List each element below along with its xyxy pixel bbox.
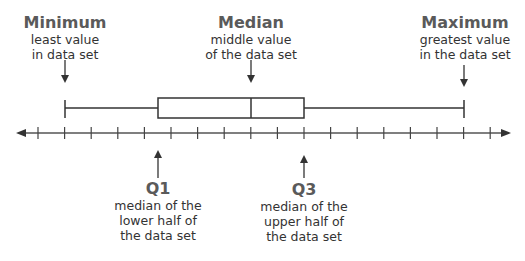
- maximum-desc-line1: greatest value: [405, 32, 525, 47]
- median-label: Median middle value of the data set: [186, 14, 316, 62]
- maximum-label: Maximum greatest value in the data set: [405, 14, 525, 62]
- maximum-title: Maximum: [405, 14, 525, 32]
- iqr-box: [158, 98, 304, 118]
- q1-desc-line1: median of the: [103, 198, 213, 213]
- q1-label: Q1 median of the lower half of the data …: [103, 180, 213, 243]
- median-title: Median: [186, 14, 316, 32]
- number-line: [16, 127, 511, 139]
- left-arrowhead-icon: [16, 129, 26, 137]
- minimum-desc-line1: least value: [5, 32, 125, 47]
- median-desc-line1: middle value: [186, 32, 316, 47]
- q1-title: Q1: [103, 180, 213, 198]
- q3-desc-line2: upper half of: [249, 214, 359, 229]
- maximum-desc-line2: in the data set: [405, 47, 525, 62]
- q3-label: Q3 median of the upper half of the data …: [249, 181, 359, 244]
- right-arrowhead-icon: [501, 129, 511, 137]
- box-and-whiskers: [65, 98, 464, 118]
- minimum-title: Minimum: [5, 14, 125, 32]
- q1-desc-line2: lower half of: [103, 213, 213, 228]
- q3-desc-line3: the data set: [249, 229, 359, 244]
- q3-desc-line1: median of the: [249, 199, 359, 214]
- q3-title: Q3: [249, 181, 359, 199]
- q1-desc-line3: the data set: [103, 228, 213, 243]
- minimum-label: Minimum least value in data set: [5, 14, 125, 62]
- median-desc-line2: of the data set: [186, 47, 316, 62]
- minimum-desc-line2: in data set: [5, 47, 125, 62]
